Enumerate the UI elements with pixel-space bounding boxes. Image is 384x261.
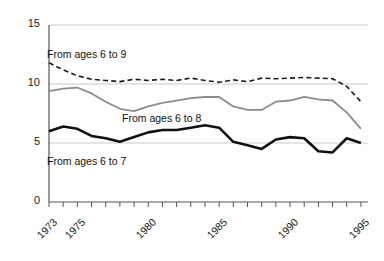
line-chart: 151050197319751980198519901995From ages … xyxy=(0,0,384,261)
series-annotation-from-ages-6-to-8: From ages 6 to 8 xyxy=(122,112,201,124)
y-axis-label-5: 5 xyxy=(14,135,40,147)
y-axis-label-15: 15 xyxy=(14,17,40,29)
series-line-from-ages-6-to-8 xyxy=(49,88,361,129)
series-line-from-ages-6-to-7 xyxy=(49,125,361,152)
series-annotation-from-ages-6-to-7: From ages 6 to 7 xyxy=(47,155,126,167)
y-axis-label-10: 10 xyxy=(14,76,40,88)
series-annotation-from-ages-6-to-9: From ages 6 to 9 xyxy=(47,48,126,60)
y-axis-label-0: 0 xyxy=(14,194,40,206)
